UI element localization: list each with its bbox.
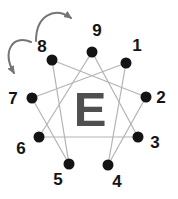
arrow-8-to-7-icon bbox=[9, 40, 31, 73]
dot-6 bbox=[34, 132, 45, 143]
point-label-4: 4 bbox=[112, 172, 122, 191]
point-label-6: 6 bbox=[16, 139, 25, 158]
dot-9 bbox=[87, 47, 98, 58]
point-label-5: 5 bbox=[53, 170, 62, 189]
dot-8 bbox=[47, 55, 58, 66]
point-label-9: 9 bbox=[92, 21, 101, 40]
dot-3 bbox=[133, 132, 144, 143]
point-label-3: 3 bbox=[150, 133, 159, 152]
point-label-8: 8 bbox=[37, 37, 46, 56]
center-letter: E bbox=[74, 82, 107, 136]
enneagram-diagram: E 9 1 2 3 4 5 6 7 8 bbox=[0, 0, 178, 199]
point-label-1: 1 bbox=[132, 36, 141, 55]
enneagram-svg: E 9 1 2 3 4 5 6 7 8 bbox=[0, 0, 178, 199]
dot-2 bbox=[141, 92, 152, 103]
point-label-7: 7 bbox=[8, 89, 17, 108]
dot-5 bbox=[64, 159, 75, 170]
dot-1 bbox=[121, 58, 132, 69]
dot-4 bbox=[103, 160, 114, 171]
point-label-2: 2 bbox=[156, 88, 165, 107]
dot-7 bbox=[27, 93, 38, 104]
